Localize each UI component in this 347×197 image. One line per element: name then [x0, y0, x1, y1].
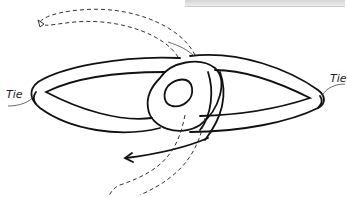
center-ring-inner — [165, 80, 193, 107]
right-tie-label: Tie — [330, 72, 347, 85]
right-loop-outer — [190, 55, 324, 132]
left-loop-inner — [46, 72, 165, 119]
left-loop-outer — [31, 58, 180, 133]
dashed-path-bottom-inner — [108, 115, 185, 197]
right-loop-inner — [200, 70, 310, 116]
dashed-path-top-inner — [45, 21, 178, 57]
direction-arrow — [126, 138, 208, 158]
left-tie-label: Tie — [6, 88, 23, 101]
dashed-path-top-outer — [40, 9, 195, 55]
